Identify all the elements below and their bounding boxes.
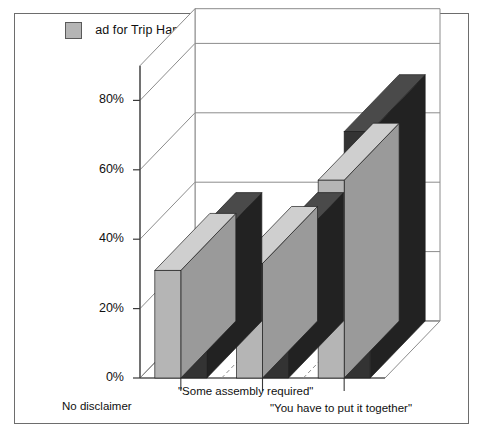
y-axis-label-4: 80% — [68, 92, 124, 106]
y-axis-label-2: 40% — [68, 231, 124, 245]
y-axis-label-0: 0% — [68, 370, 124, 384]
plot-area: 0% 20% 40% 60% 80% No disclaimer "Some a… — [0, 0, 485, 439]
x-axis-label-1: "Some assembly required" — [178, 385, 313, 397]
x-axis-label-0: No disclaimer — [62, 400, 132, 412]
y-axis-label-1: 20% — [68, 301, 124, 315]
y-axis-label-3: 60% — [68, 162, 124, 176]
chart-container: ad for Trip Hammer toy ad for Homestretc… — [0, 0, 485, 439]
x-axis-label-2: "You have to put it together" — [270, 402, 412, 414]
